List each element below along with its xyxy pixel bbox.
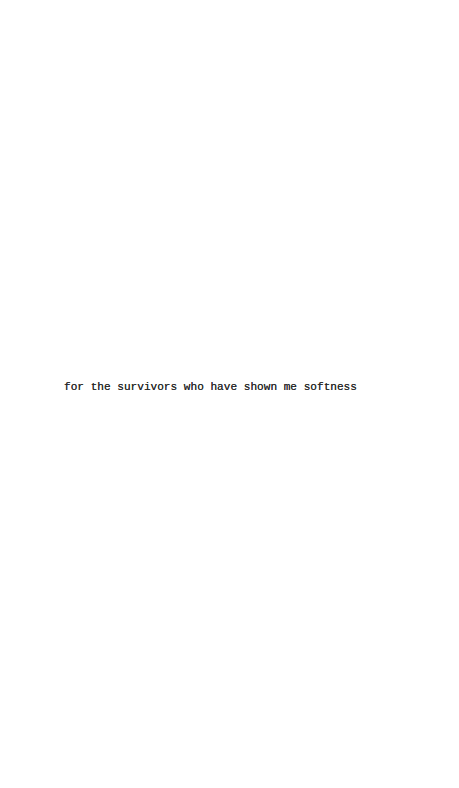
dedication-text: for the survivors who have shown me soft… xyxy=(64,379,357,395)
book-page: for the survivors who have shown me soft… xyxy=(0,0,459,788)
